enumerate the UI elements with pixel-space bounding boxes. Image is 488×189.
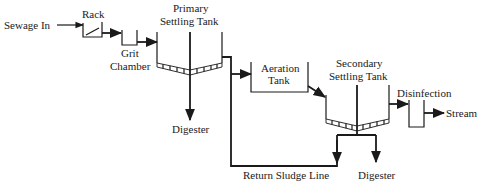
label-primary-line2: Settling Tank — [160, 15, 219, 27]
grit-chamber-unit — [122, 30, 137, 45]
label-grit-line2: Chamber — [110, 60, 151, 72]
label-aeration-line2: Tank — [268, 74, 290, 86]
primary-settling-tank — [157, 32, 222, 120]
label-grit-line1: Grit — [121, 47, 139, 59]
label-rack: Rack — [82, 8, 105, 20]
label-secondary-line1: Secondary — [336, 57, 383, 69]
process-flow-diagram: Sewage In Rack Grit Chamber Primary Sett… — [0, 0, 488, 189]
rack-screen-icon — [86, 28, 99, 35]
disinfection-unit — [409, 100, 424, 127]
label-disinfection: Disinfection — [397, 87, 452, 99]
rack-unit — [83, 22, 102, 37]
label-return-sludge-line: Return Sludge Line — [243, 169, 329, 181]
label-sewage-in: Sewage In — [4, 19, 51, 31]
label-aeration-line1: Aeration — [261, 62, 300, 74]
label-primary-digester: Digester — [172, 123, 210, 135]
label-stream: Stream — [446, 107, 478, 119]
label-secondary-line2: Settling Tank — [329, 70, 388, 82]
label-secondary-digester: Digester — [358, 169, 396, 181]
label-primary-line1: Primary — [173, 2, 209, 14]
secondary-settling-tank — [326, 85, 389, 135]
arrow-aeration-to-secondary — [308, 86, 325, 97]
